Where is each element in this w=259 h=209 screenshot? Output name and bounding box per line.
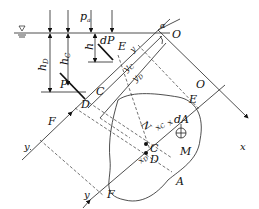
y-bottom-label: y bbox=[83, 189, 90, 200]
M-label: M bbox=[179, 145, 192, 158]
dA-label: dA bbox=[174, 113, 189, 126]
inclined-plane bbox=[22, 19, 248, 208]
hD-label: hD bbox=[36, 58, 50, 71]
y-left-label: y bbox=[23, 141, 30, 152]
D-center-label: D bbox=[149, 153, 159, 166]
O-right-label: O bbox=[196, 78, 205, 91]
free-surface bbox=[14, 26, 170, 37]
O-top-label: O bbox=[172, 28, 181, 41]
A-label: A bbox=[175, 175, 184, 188]
P-label: P bbox=[59, 78, 68, 91]
yC-label: yC bbox=[120, 59, 136, 75]
alpha-label: α bbox=[160, 21, 166, 30]
F-left-label: F bbox=[47, 115, 56, 128]
x-axis-label: x bbox=[240, 141, 246, 152]
E-top-label: E bbox=[117, 40, 126, 53]
centroid-point bbox=[144, 142, 148, 146]
h-label: h bbox=[83, 43, 96, 50]
hydrostatic-diagram: pa hD hC h dP P α O E bbox=[0, 0, 259, 209]
dP-label: dP bbox=[100, 34, 115, 47]
xD-label: xD bbox=[136, 152, 150, 166]
D-top-label: D bbox=[80, 98, 90, 111]
C-top-label: C bbox=[96, 85, 105, 98]
pa-label: pa bbox=[80, 10, 91, 23]
hC-label: hC bbox=[58, 52, 72, 65]
F-bottom-label: F bbox=[106, 188, 115, 201]
y-dim-label: y bbox=[127, 44, 138, 55]
